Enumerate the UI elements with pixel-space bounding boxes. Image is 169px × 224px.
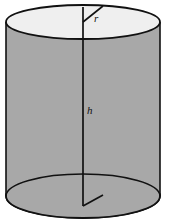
cylinder-figure: r h	[0, 0, 169, 224]
height-label: h	[87, 104, 93, 116]
cylinder-diagram: r h	[0, 0, 169, 224]
radius-label: r	[94, 12, 99, 24]
